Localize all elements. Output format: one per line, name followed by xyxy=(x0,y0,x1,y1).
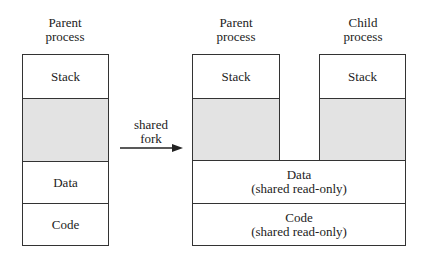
child-private-memory: Stack xyxy=(319,54,406,161)
shared-data-line2: (shared read-only) xyxy=(251,182,347,196)
right-parent-free-segment xyxy=(193,98,279,160)
left-free-segment xyxy=(23,98,108,161)
fork-arrow-icon xyxy=(118,142,186,154)
shared-code-segment: Code (shared read-only) xyxy=(193,203,405,245)
left-data-segment: Data xyxy=(23,161,108,203)
left-heading-line1: Parent xyxy=(22,16,108,30)
right-parent-heading-line2: process xyxy=(192,30,280,44)
arrow-label-line1: shared xyxy=(118,118,184,132)
child-free-segment xyxy=(320,98,405,160)
shared-data-line1: Data xyxy=(287,168,312,182)
left-stack-label: Stack xyxy=(51,70,80,84)
right-parent-heading: Parent process xyxy=(192,16,280,44)
left-parent-heading: Parent process xyxy=(22,16,108,44)
shared-code-line2: (shared read-only) xyxy=(251,225,347,239)
shared-data-segment: Data (shared read-only) xyxy=(193,161,405,203)
right-parent-private-memory: Stack xyxy=(192,54,280,161)
child-heading: Child process xyxy=(319,16,407,44)
right-parent-heading-line1: Parent xyxy=(192,16,280,30)
right-parent-stack-label: Stack xyxy=(222,70,251,84)
left-data-label: Data xyxy=(53,176,78,190)
left-stack-segment: Stack xyxy=(23,55,108,98)
child-stack-segment: Stack xyxy=(320,55,405,98)
child-stack-label: Stack xyxy=(348,70,377,84)
left-heading-line2: process xyxy=(22,30,108,44)
child-heading-line2: process xyxy=(319,30,407,44)
shared-memory: Data (shared read-only) Code (shared rea… xyxy=(192,160,406,246)
right-parent-stack-segment: Stack xyxy=(193,55,279,98)
left-code-label: Code xyxy=(52,218,79,232)
child-heading-line1: Child xyxy=(319,16,407,30)
shared-code-line1: Code xyxy=(285,211,312,225)
left-process-memory: Stack Data Code xyxy=(22,54,109,246)
left-code-segment: Code xyxy=(23,203,108,245)
